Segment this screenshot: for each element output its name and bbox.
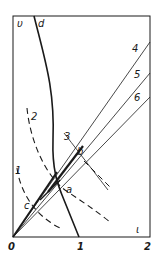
line-3-label: 3 [64,131,70,142]
point-c-label: c [24,200,30,211]
curve-d-label: d [38,18,45,29]
plot-frame [13,16,150,237]
point-b-label: b [77,146,83,157]
dashed-curve-1-label: 1 [15,165,21,176]
x-tick-0: 0 [8,241,15,252]
x-tick-2: 2 [144,241,151,252]
dashed-curve-2-label: 2 [31,111,37,122]
x-axis-label: ι [136,224,139,235]
line-5-label: 5 [134,69,140,80]
point-a-label: a [66,184,72,195]
x-tick-1: 1 [77,241,84,252]
diagram-canvas: υ d 4 5 6 2 3 1 b a c ι 0 1 2 [0,0,159,261]
line-6-label: 6 [134,92,140,103]
y-axis-label: υ [17,18,23,29]
line-3-dashed-tail [84,161,110,187]
line-4-label: 4 [132,43,138,54]
